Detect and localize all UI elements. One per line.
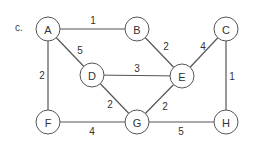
node-a: A bbox=[36, 17, 60, 41]
edge-weight-e-g: 2 bbox=[162, 101, 168, 112]
edge-weight-f-g: 4 bbox=[89, 126, 95, 137]
node-label: G bbox=[133, 117, 142, 129]
node-h: H bbox=[214, 110, 238, 134]
node-e: E bbox=[170, 64, 194, 88]
node-label: D bbox=[88, 70, 96, 82]
node-f: F bbox=[36, 110, 60, 134]
edge-weight-g-h: 5 bbox=[178, 126, 184, 137]
node-label: A bbox=[44, 24, 52, 36]
node-d: D bbox=[80, 63, 104, 87]
edge-weight-c-e: 4 bbox=[200, 41, 206, 52]
weighted-graph-diagram: c. 15224132245 ABCDEFGH bbox=[0, 0, 253, 146]
edge-weight-c-h: 1 bbox=[229, 71, 235, 82]
edge-weight-a-f: 2 bbox=[39, 70, 45, 81]
edge-weight-d-e: 3 bbox=[134, 63, 140, 74]
node-label: H bbox=[222, 117, 230, 129]
node-c: C bbox=[214, 17, 238, 41]
node-label: F bbox=[45, 117, 52, 129]
node-label: B bbox=[133, 24, 140, 36]
edge-weight-a-b: 1 bbox=[90, 15, 96, 26]
node-label: C bbox=[222, 24, 230, 36]
figure-label: c. bbox=[15, 22, 23, 33]
node-g: G bbox=[125, 110, 149, 134]
edge-weight-b-e: 2 bbox=[163, 41, 169, 52]
edge-weight-a-d: 5 bbox=[77, 45, 83, 56]
node-label: E bbox=[178, 71, 185, 83]
edge-weight-d-g: 2 bbox=[107, 99, 113, 110]
edge-d-e bbox=[92, 75, 182, 76]
node-b: B bbox=[125, 17, 149, 41]
